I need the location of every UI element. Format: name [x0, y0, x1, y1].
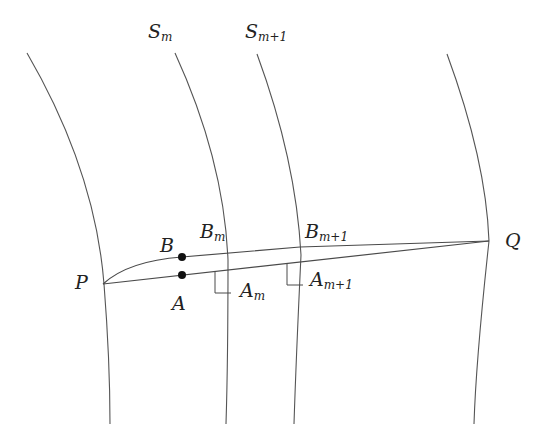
- label-s-m-plus-1: Sm+1: [245, 22, 287, 43]
- diagram-canvas: [0, 0, 545, 448]
- point-b-dot: [178, 253, 186, 261]
- label-s-m: Sm: [148, 22, 172, 43]
- label-a-m: Am: [240, 281, 265, 302]
- label-q: Q: [505, 231, 521, 250]
- label-b-m: Bm: [200, 222, 225, 243]
- label-b: B: [160, 236, 174, 255]
- right-angle-mark-a-m: [215, 271, 231, 293]
- label-b-m-plus-1: Bm+1: [305, 222, 348, 243]
- point-a-dot: [178, 271, 186, 279]
- surface-curve-s-m-plus-1: [257, 54, 301, 424]
- label-a-m-plus-1: Am+1: [310, 270, 353, 291]
- surface-curve-left: [27, 53, 110, 424]
- label-p: P: [75, 273, 88, 292]
- surface-curve-right-q: [447, 54, 489, 424]
- label-a: A: [172, 294, 186, 313]
